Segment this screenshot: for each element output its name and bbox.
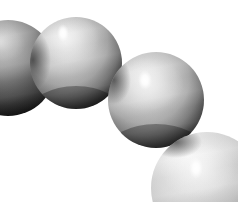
specular-highlight-sphere-3 xyxy=(189,157,203,179)
sphere-chain-image: Chain of spherical beads xyxy=(0,0,238,202)
sphere-chain-canvas xyxy=(0,0,238,202)
specular-highlight-sphere-2 xyxy=(138,70,152,90)
specular-highlight-sphere-1 xyxy=(57,24,69,42)
